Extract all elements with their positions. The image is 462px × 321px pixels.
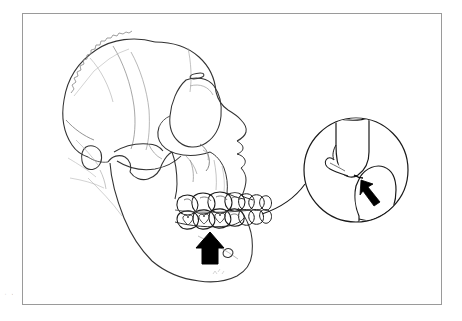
temporal-line-upper xyxy=(113,46,135,149)
nasal-concha-detail xyxy=(203,150,208,160)
nasal-aperture-edge xyxy=(200,144,209,171)
nasal-bone-profile xyxy=(237,120,246,141)
dentition-group xyxy=(175,192,272,229)
maxilla-faint-line-a xyxy=(214,160,216,190)
mandible-group xyxy=(68,140,252,282)
mastoid-process xyxy=(82,146,102,170)
lower-cusp-detail xyxy=(199,214,209,224)
magnified-occlusion-detail xyxy=(304,105,408,232)
orbit-inner-rim xyxy=(190,85,213,95)
orbit-outline xyxy=(170,78,221,147)
upper-cusp-detail xyxy=(184,199,192,203)
coronoid-process xyxy=(162,152,172,164)
lower-tooth xyxy=(249,210,264,225)
mandibular-notch xyxy=(130,164,162,180)
orbit-group xyxy=(159,72,221,147)
mandible-body-upper xyxy=(238,208,252,254)
ramus-anterior-border xyxy=(172,152,177,199)
skull-illustration xyxy=(0,0,462,321)
midface-group xyxy=(114,127,244,199)
lower-cusp-detail xyxy=(183,215,193,225)
maxilla-lateral-contour xyxy=(210,152,227,193)
illustration-page: - r n s - e xyxy=(0,0,462,321)
chin-signature-mark xyxy=(213,269,224,274)
zygomatic-arch-upper xyxy=(114,144,163,152)
styloid-faint xyxy=(100,170,106,189)
mandibular-condyle xyxy=(108,156,131,172)
temporal-fossa-line xyxy=(149,145,162,159)
parietal-faint-line xyxy=(90,58,113,102)
ramus-posterior-border xyxy=(110,163,152,261)
occipital-curve xyxy=(66,120,94,140)
temporal-line-lower xyxy=(131,52,149,150)
zygomatic-frontal-edge xyxy=(159,116,170,127)
frontal-suture-faint xyxy=(188,48,191,92)
coronal-suture-inner xyxy=(74,49,129,96)
mental-foramen-icon xyxy=(222,247,234,258)
nasal-spine-region xyxy=(237,141,245,168)
maxilla-faint-line-b xyxy=(222,166,224,192)
skull-base-posterior xyxy=(88,157,108,162)
lower-tooth xyxy=(177,211,199,229)
lower-cusp-detail xyxy=(215,213,225,223)
cranial-vault-outline xyxy=(63,39,155,157)
lower-cusp-detail xyxy=(231,214,239,217)
upper-cusp-detail xyxy=(200,197,211,201)
upper-tooth-crown xyxy=(336,105,369,177)
frontal-bone-profile xyxy=(155,42,216,92)
maxilla-anterior-edge xyxy=(241,168,246,196)
post-mastoid-line-c xyxy=(70,178,104,188)
zygomatic-body xyxy=(158,127,210,155)
